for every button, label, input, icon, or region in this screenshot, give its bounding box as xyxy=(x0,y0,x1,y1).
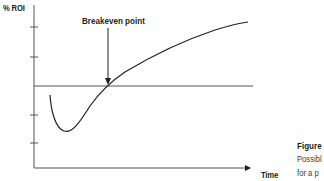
figure-caption: Figure Possibl for a p xyxy=(297,140,324,180)
y-axis-label: % ROI xyxy=(3,3,25,13)
breakeven-label: Breakeven point xyxy=(82,15,145,26)
caption-line-2: for a p xyxy=(297,166,324,180)
x-axis-label: Time xyxy=(261,170,278,180)
roi-curve xyxy=(50,22,248,131)
roi-chart xyxy=(0,0,324,181)
caption-title: Figure xyxy=(297,140,324,152)
caption-line-1: Possibl xyxy=(297,152,324,166)
